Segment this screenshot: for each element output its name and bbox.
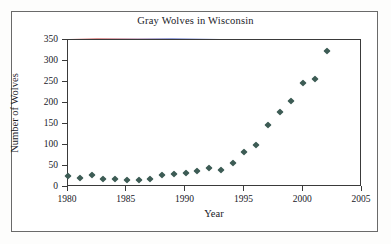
- y-tick-label: 150: [27, 118, 58, 128]
- x-tick-mark: [125, 186, 126, 191]
- data-point: [147, 176, 154, 183]
- y-tick-label: 300: [27, 55, 58, 65]
- x-tick-mark: [67, 186, 68, 191]
- y-tick-label: 50: [27, 160, 58, 170]
- y-tick-mark: [62, 102, 67, 103]
- y-tick-mark: [62, 123, 67, 124]
- data-point: [182, 169, 189, 176]
- data-point: [194, 167, 201, 174]
- chart-title: Gray Wolves in Wisconsin: [0, 15, 391, 26]
- data-point: [76, 175, 83, 182]
- y-tick-label: 200: [27, 97, 58, 107]
- x-tick-label: 1985: [116, 194, 135, 204]
- y-tick-label: 250: [27, 76, 58, 86]
- x-tick-label: 1980: [58, 194, 77, 204]
- plot-area: [67, 39, 361, 186]
- data-point: [288, 97, 295, 104]
- x-tick-mark: [184, 186, 185, 191]
- data-point: [170, 170, 177, 177]
- x-tick-label: 2005: [352, 194, 371, 204]
- x-tick-mark: [302, 186, 303, 191]
- x-tick-mark: [361, 186, 362, 191]
- y-tick-mark: [62, 144, 67, 145]
- data-point: [111, 176, 118, 183]
- data-point: [100, 175, 107, 182]
- data-point: [300, 79, 307, 86]
- x-axis-label: Year: [204, 208, 223, 219]
- data-point: [241, 149, 248, 156]
- y-tick-mark: [62, 39, 67, 40]
- y-tick-mark: [62, 81, 67, 82]
- data-point: [217, 167, 224, 174]
- y-tick-label: 0: [27, 181, 58, 191]
- x-tick-label: 1990: [175, 194, 194, 204]
- data-point: [123, 176, 130, 183]
- y-tick-mark: [62, 60, 67, 61]
- data-point: [229, 160, 236, 167]
- y-tick-mark: [62, 165, 67, 166]
- data-point: [88, 172, 95, 179]
- data-point: [323, 48, 330, 55]
- y-tick-label: 350: [27, 34, 58, 44]
- y-tick-label: 100: [27, 139, 58, 149]
- x-tick-label: 1995: [234, 194, 253, 204]
- x-tick-label: 2000: [293, 194, 312, 204]
- data-point: [276, 109, 283, 116]
- data-point: [311, 76, 318, 83]
- y-axis-label: Number of Wolves: [9, 73, 20, 152]
- data-point: [135, 177, 142, 184]
- data-point: [253, 142, 260, 149]
- data-point: [206, 165, 213, 172]
- figure: Gray Wolves in Wisconsin Number of Wolve…: [0, 0, 391, 244]
- data-point: [159, 172, 166, 179]
- data-point: [264, 121, 271, 128]
- x-tick-mark: [243, 186, 244, 191]
